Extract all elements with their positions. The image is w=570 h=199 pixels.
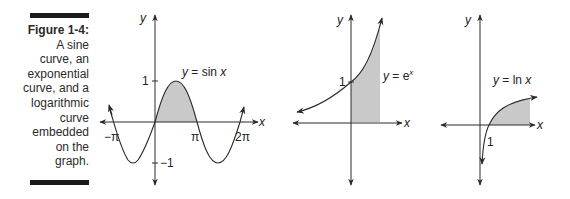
log-shaded-area	[489, 98, 530, 125]
logarithmic-graph: y x 1 y = ln x	[441, 13, 544, 185]
sine-tick-label-neg1: −1	[160, 156, 174, 170]
sine-equation: y = sin x	[181, 65, 227, 79]
sine-tick-label-2pi: 2π	[235, 130, 250, 144]
log-equation: y = ln x	[492, 73, 532, 87]
sine-graph: y x 1 −1 −π π 2π y = sin x	[100, 11, 266, 185]
sine-tick-label-pi: π	[191, 130, 199, 144]
exponential-graph: y x 1 y = ex	[293, 13, 414, 185]
log-tick-label-1: 1	[487, 135, 494, 149]
log-axis-x-label: x	[536, 118, 544, 132]
exp-shaded-area	[351, 28, 380, 122]
exp-axis-y-label: y	[336, 13, 344, 27]
exp-equation: y = ex	[382, 68, 414, 83]
sine-tick-label-1: 1	[142, 74, 149, 88]
sine-axis-x-label: x	[258, 115, 266, 129]
exp-axis-x-label: x	[403, 116, 411, 130]
graphs-canvas: y x 1 −1 −π π 2π y = sin x y x 1 y = ex …	[0, 0, 570, 199]
log-axis-y-label: y	[464, 13, 472, 27]
sine-axis-y-label: y	[139, 11, 147, 25]
sine-tick-label-neg-pi: −π	[104, 130, 119, 144]
exp-tick-label-1: 1	[339, 75, 346, 89]
